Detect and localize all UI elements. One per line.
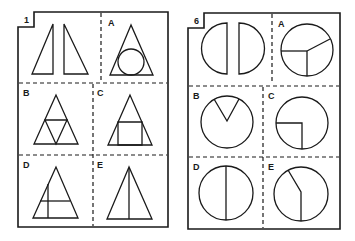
option-e[interactable]: E: [268, 162, 328, 221]
prompt-shapes: [202, 23, 265, 74]
svg-text:C: C: [268, 91, 275, 101]
option-d[interactable]: D: [23, 160, 78, 218]
option-a[interactable]: A: [108, 18, 153, 75]
svg-text:D: D: [193, 162, 200, 172]
panel-1-number: 1: [24, 15, 29, 25]
puzzle-figure: 1 A B C D: [0, 0, 355, 241]
option-a[interactable]: A: [278, 19, 333, 76]
svg-text:D: D: [23, 160, 30, 170]
svg-text:E: E: [97, 160, 103, 170]
option-e[interactable]: E: [97, 160, 152, 219]
svg-text:B: B: [23, 88, 30, 98]
option-c[interactable]: C: [97, 88, 152, 145]
panel-6: 6 A B C: [188, 13, 340, 229]
panel-6-number: 6: [194, 16, 199, 26]
svg-text:C: C: [97, 88, 104, 98]
panel-1: 1 A B C D: [18, 12, 168, 227]
option-b[interactable]: B: [23, 88, 78, 144]
svg-text:A: A: [108, 18, 115, 28]
option-c[interactable]: C: [268, 91, 328, 149]
option-b[interactable]: B: [193, 91, 253, 148]
svg-text:B: B: [193, 91, 200, 101]
svg-text:E: E: [268, 162, 274, 172]
svg-text:A: A: [278, 19, 285, 29]
prompt-shapes: [32, 24, 88, 74]
option-d[interactable]: D: [193, 162, 253, 220]
